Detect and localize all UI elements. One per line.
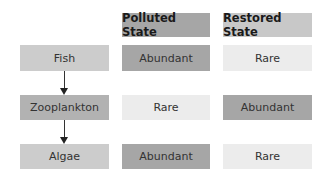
header-restored-state: Restored State <box>223 13 312 37</box>
fish-polluted-value: Abundant <box>122 45 210 71</box>
algae-polluted-value: Abundant <box>122 144 210 169</box>
zooplankton-polluted-value: Rare <box>122 95 210 120</box>
arrow-fish-to-zooplankton <box>64 71 65 89</box>
arrowhead-icon <box>60 137 68 144</box>
arrow-zooplankton-to-algae <box>64 120 65 138</box>
fish-restored-value: Rare <box>223 45 312 71</box>
algae-restored-value: Rare <box>223 144 312 169</box>
zooplankton-restored-value: Abundant <box>223 95 312 120</box>
organism-zooplankton: Zooplankton <box>20 95 109 120</box>
header-polluted-state: Polluted State <box>122 13 210 37</box>
arrowhead-icon <box>60 88 68 95</box>
organism-fish: Fish <box>20 45 109 71</box>
organism-algae: Algae <box>20 144 109 169</box>
